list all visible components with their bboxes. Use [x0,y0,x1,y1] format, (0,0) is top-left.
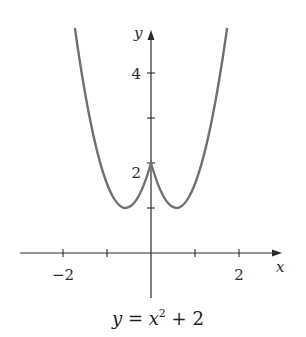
x-axis-label: x [276,258,285,276]
y-axis-arrow-icon [148,30,155,40]
caption-equation: y = x2 + 2 [111,307,204,329]
graph: −2 2 2 4 x y y = x2 + 2 [0,0,306,337]
x-tick-label-neg2: −2 [52,266,74,284]
y-tick-label-2: 2 [131,164,141,182]
y-tick-label-4: 4 [131,65,141,83]
x-tick-label-2: 2 [234,266,244,284]
y-axis-label: y [133,24,143,42]
x-axis-arrow-icon [272,250,282,257]
